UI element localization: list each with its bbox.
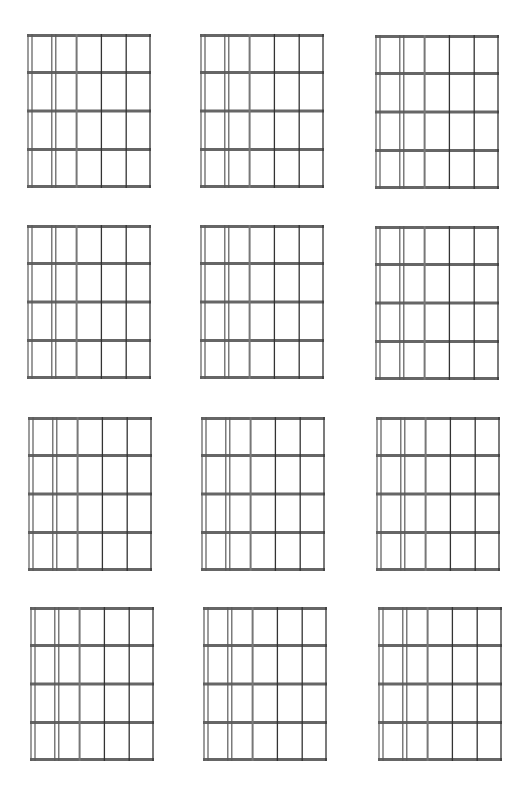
chord-diagram xyxy=(203,607,327,761)
chord-diagram xyxy=(200,34,324,188)
chord-diagram xyxy=(375,226,499,380)
chord-diagram xyxy=(200,225,324,379)
chord-diagram xyxy=(375,35,499,189)
chord-diagram xyxy=(28,417,152,571)
chord-diagram xyxy=(30,607,154,761)
chord-diagram xyxy=(27,225,151,379)
chord-diagram xyxy=(378,607,502,761)
chord-diagram xyxy=(27,34,151,188)
chord-diagram xyxy=(201,417,325,571)
chord-diagram xyxy=(376,417,500,571)
